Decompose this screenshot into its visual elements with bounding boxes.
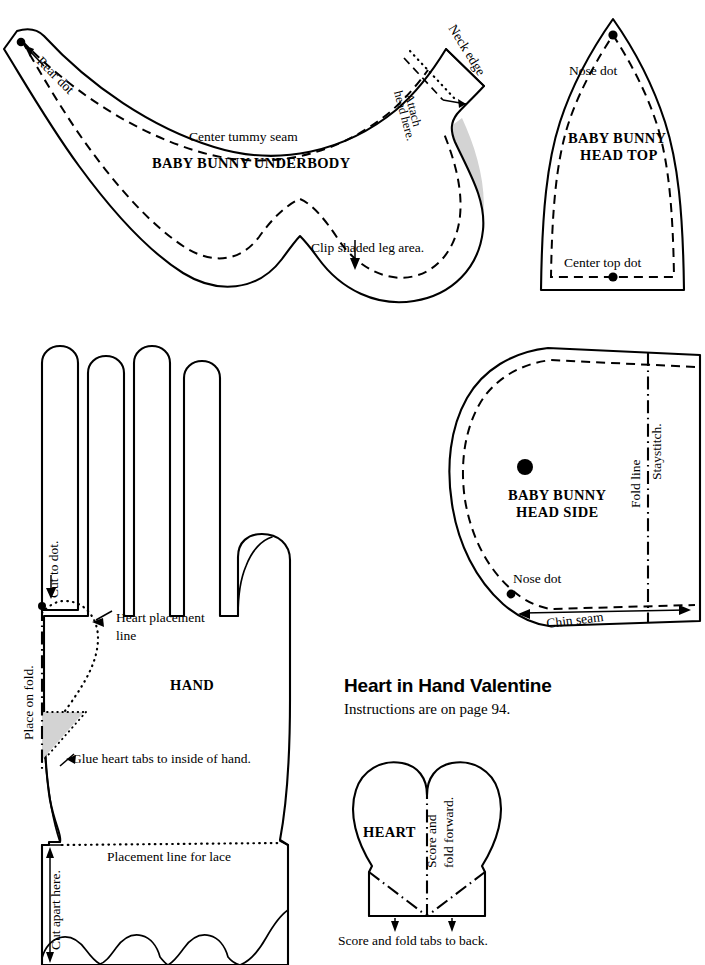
label-score-fold-forward-line1: Score and	[424, 814, 439, 868]
label-heart-name: HEART	[363, 824, 416, 840]
label-score-fold-forward-line2: fold forward.	[441, 797, 456, 868]
label-score-fold-tabs: Score and fold tabs to back.	[338, 933, 488, 948]
project-title: Heart in Hand Valentine	[344, 675, 552, 696]
heart-piece-and-title: Heart in Hand Valentine Instructions are…	[0, 0, 705, 965]
project-instructions: Instructions are on page 94.	[344, 701, 510, 717]
pattern-sheet: Rear dot Center tummy seam BABY BUNNY UN…	[0, 0, 705, 965]
